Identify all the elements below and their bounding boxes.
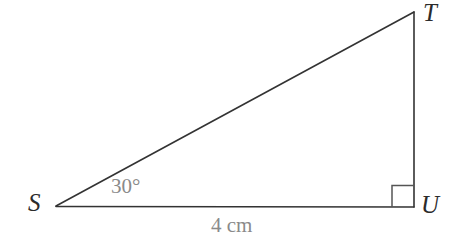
vertex-label-s: S	[28, 190, 41, 215]
segment-SU	[56, 207, 414, 208]
vertex-label-t: T	[423, 0, 437, 25]
segment-ST	[56, 12, 414, 206]
triangle-canvas	[0, 0, 467, 245]
angle-label-s: 30°	[111, 176, 140, 197]
vertex-label-u: U	[421, 192, 439, 217]
geometry-diagram: S T U 30° 4 cm	[0, 0, 467, 245]
right-angle-marker-icon	[392, 186, 414, 208]
side-length-label-su: 4 cm	[211, 215, 252, 236]
